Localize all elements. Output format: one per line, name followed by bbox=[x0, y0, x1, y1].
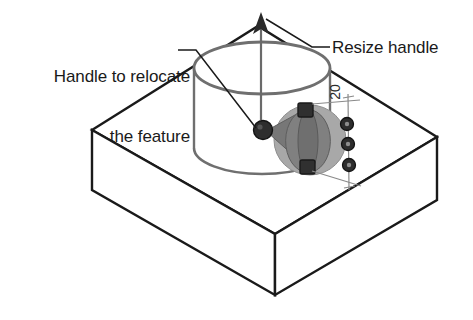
callout-relocate-line2: the feature bbox=[14, 127, 190, 147]
callout-handle-to-relocate: Handle to relocate the feature bbox=[14, 27, 190, 187]
relocate-handle-highlight bbox=[257, 124, 262, 129]
relocate-ball-handle[interactable] bbox=[254, 121, 273, 140]
relocate-handle-icon[interactable] bbox=[254, 121, 273, 140]
callout-relocate-line1: Handle to relocate bbox=[14, 67, 190, 87]
dim-handle-2[interactable] bbox=[342, 138, 355, 151]
dimension-handles-group[interactable] bbox=[341, 118, 356, 172]
square-handle-lower[interactable] bbox=[300, 160, 315, 174]
dim-handle-1[interactable] bbox=[341, 118, 354, 131]
figure-canvas: Handle to relocate the feature Resize ha… bbox=[0, 0, 473, 320]
callout-resize-handle: Resize handle bbox=[332, 38, 438, 58]
dimension-value-label[interactable]: 20 bbox=[327, 84, 343, 100]
square-handle-upper[interactable] bbox=[298, 103, 313, 117]
dim-handle-3[interactable] bbox=[343, 159, 356, 172]
